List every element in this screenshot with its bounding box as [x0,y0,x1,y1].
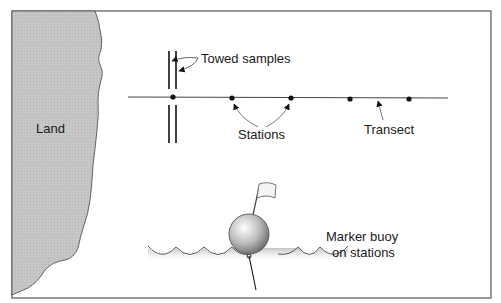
transect-label: Transect [364,122,414,137]
land-mass [12,11,102,295]
station-dot-1 [170,94,175,99]
towed-arrow-2 [179,58,198,71]
station-dot-3 [288,95,293,100]
station-dot-5 [406,96,411,101]
marker-buoy-label-line2: on stations [332,245,395,260]
stations-arrow-left [234,104,258,127]
sampling-diagram [0,0,501,303]
stations-label: Stations [238,127,285,142]
marker-buoy [229,214,269,254]
transect-arrow [378,101,383,120]
stations-arrow-right [266,104,289,127]
towed-samples-label: Towed samples [201,51,291,66]
transect-line [128,97,448,98]
marker-buoy-label-line1: Marker buoy [326,229,398,244]
station-dot-2 [229,95,234,100]
flag [257,183,276,198]
station-dot-4 [347,96,352,101]
land-label: Land [36,121,65,136]
